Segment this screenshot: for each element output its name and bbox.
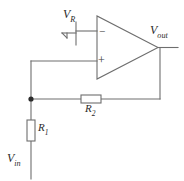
label-r2-sub: 2 xyxy=(92,109,96,118)
label-vout: Vout xyxy=(150,24,168,40)
ground-hatch xyxy=(62,33,67,38)
opamp-body-triangle xyxy=(97,16,158,79)
label-r1-sub: 1 xyxy=(45,128,49,137)
label-vr-sub: R xyxy=(70,15,75,24)
resistor-r1-body xyxy=(27,120,35,141)
label-vout-sub: out xyxy=(157,31,167,40)
opamp-inverting-sign: − xyxy=(99,26,105,37)
label-vr: VR xyxy=(63,8,75,24)
label-r2-base: R xyxy=(85,102,92,114)
label-vin-sub: in xyxy=(14,159,20,168)
label-r1-base: R xyxy=(38,121,45,133)
label-r2: R2 xyxy=(85,103,95,117)
opamp-noninverting-sign: + xyxy=(98,54,105,66)
label-vin: Vin xyxy=(7,152,21,168)
label-r1: R1 xyxy=(38,122,48,136)
junction-node-dot xyxy=(28,96,33,101)
circuit-diagram: − + VR Vout R2 R1 Vin xyxy=(0,0,184,181)
